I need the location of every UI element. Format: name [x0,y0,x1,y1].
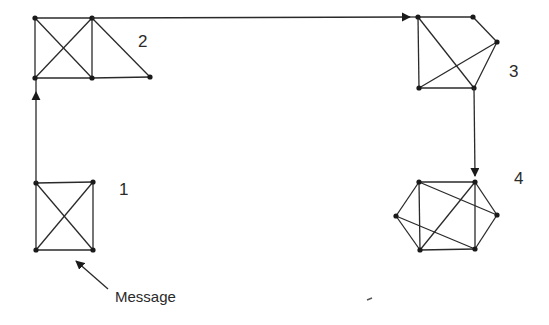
network-diagram [0,0,549,325]
cluster-3 [415,14,499,90]
cluster-3-label: 3 [509,63,518,80]
message-label: Message [115,289,176,304]
arrow-2-to-3 [92,17,410,18]
cluster-4 [393,179,499,252]
cluster-1 [33,179,95,252]
message-arrow [76,261,108,289]
cluster-4-label: 4 [514,170,523,187]
arrow-3-to-4 [474,88,475,176]
cluster-1-label: 1 [119,181,128,198]
cluster-2 [32,15,152,80]
cluster-2-label: 2 [138,33,147,50]
scan-artifact [367,298,372,300]
